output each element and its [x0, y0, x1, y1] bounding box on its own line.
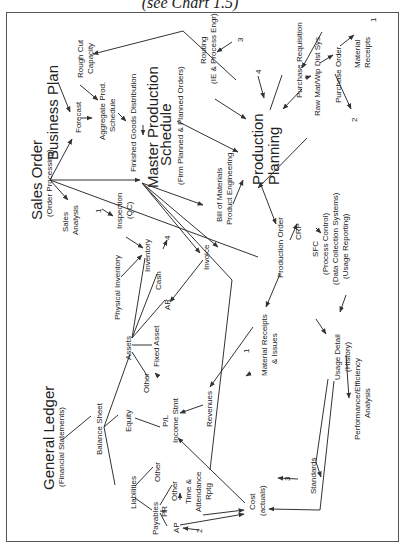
svg-text:Aggregate Prod.Schedule: Aggregate Prod.Schedule — [98, 82, 117, 140]
node-assets: Assets — [124, 336, 133, 360]
ref-pp-4: 4 — [254, 69, 263, 74]
node-ar: AR — [163, 299, 172, 310]
node-aggregate-2: Schedule — [108, 98, 117, 132]
node-balance-sheet: Balance Sheet — [95, 402, 104, 455]
node-pl-1: P/L — [161, 414, 170, 427]
node-cost-1: Cost — [248, 493, 257, 510]
node-equity: Equity — [124, 410, 133, 432]
node-other-pay: Other — [170, 481, 179, 501]
node-general-ledger: General Ledger — [40, 386, 57, 490]
node-mr-top-1: Material — [353, 39, 362, 68]
node-routing-2: (IE & Process Engr) — [209, 13, 218, 84]
node-purchase-req: Purchase Requisition — [295, 22, 304, 98]
erp-flow-diagram: Business Plan Forecast Rough CutCapacity… — [0, 0, 405, 549]
node-performance-1: Performance/Efficiency — [353, 358, 362, 440]
ref-inventory-4: 4 — [163, 235, 172, 240]
node-performance-2: Analysis — [363, 388, 372, 418]
node-rough-cut-1: Rough Cut — [76, 39, 85, 78]
node-ta-2: Attendance — [194, 471, 203, 512]
node-mr-top-2: Receipts — [363, 37, 372, 68]
node-cash: Cash — [154, 271, 163, 290]
svg-text:Master ProductionSchedule: Master ProductionSchedule — [144, 66, 174, 188]
node-invoice: Invoice — [202, 244, 211, 270]
node-raw-mat: Raw Mat/Wip Dist Sys — [313, 37, 322, 116]
svg-text:Material Receipts& Issues: Material Receipts& Issues — [260, 314, 279, 376]
svg-text:P/LIncome Stmt: P/LIncome Stmt — [161, 397, 180, 443]
svg-text:Time &AttendanceRptg: Time &AttendanceRptg — [184, 471, 213, 512]
svg-text:SalesAnalysis: SalesAnalysis — [61, 205, 80, 235]
node-fg-distribution: Finished Goods Distribution — [129, 74, 138, 172]
ref-mr-1: 1 — [369, 17, 378, 22]
node-sales-order: Sales Order — [28, 140, 45, 220]
node-mps-sub: (Firm Planned & Planned Orders) — [176, 66, 185, 185]
ref-po-2: 2 — [350, 117, 359, 122]
ref-standards-3: 3 — [283, 476, 292, 481]
node-production-order: Production Order — [276, 217, 285, 278]
node-inventory: Inventory — [143, 239, 152, 272]
node-other-liab: Other — [153, 462, 162, 482]
svg-text:Usage Detail(History): Usage Detail(History) — [333, 334, 352, 380]
node-mri-2: & Issues — [270, 333, 279, 364]
ref-ap-2: 2 — [195, 528, 204, 533]
node-sfc-3: (Data Collection Systems) — [331, 192, 340, 285]
svg-text:Bill of MaterialsProduct Engin: Bill of MaterialsProduct Engineering — [215, 153, 234, 226]
node-physical-inventory: Physical Inventory — [113, 255, 122, 320]
node-rough-cut-2: Capacity — [86, 43, 95, 74]
node-inspection-2: (QC) — [125, 201, 134, 219]
node-other-assets: Other — [142, 373, 151, 393]
node-liabilities: Liabilities — [129, 476, 138, 509]
node-ap: AP — [172, 522, 181, 533]
svg-text:MaterialReceipts: MaterialReceipts — [353, 37, 372, 68]
node-ta-1: Time & — [184, 478, 193, 504]
node-pp-2: Planning — [265, 127, 282, 185]
node-sales-order-sub: (Order Processing) — [45, 149, 54, 217]
svg-text:Cost(actuals): Cost(actuals) — [248, 485, 267, 516]
node-sfc-4: (Usage Reporting) — [341, 213, 350, 279]
node-standards: Standards — [309, 458, 318, 494]
node-payables: Payables — [151, 502, 160, 535]
node-bom-1: Bill of Materials — [215, 168, 224, 222]
node-sfc-2: (Process Control) — [321, 212, 330, 275]
node-mri-1: Material Receipts — [260, 314, 269, 376]
node-business-plan: Business Plan — [44, 65, 61, 160]
node-cost-2: (actuals) — [258, 485, 267, 516]
svg-text:ProductionPlanning: ProductionPlanning — [249, 113, 282, 185]
node-pp-1: Production — [249, 113, 266, 185]
node-general-ledger-sub: (Financial Statements) — [57, 407, 66, 487]
ref-mri-1: 1 — [242, 348, 251, 353]
node-forecast: Forecast — [74, 101, 83, 133]
ref-inspection-1: 1 — [94, 208, 103, 213]
node-crp: CRP — [294, 223, 303, 240]
node-usage-1: Usage Detail — [333, 334, 342, 380]
node-sfc-1: SFC — [311, 241, 320, 257]
svg-text:Inspection(QC): Inspection(QC) — [115, 193, 134, 229]
node-bom-2: Product Engineering — [225, 153, 234, 226]
node-inspection-1: Inspection — [115, 193, 124, 229]
svg-text:SFC(Process Control)(Data Coll: SFC(Process Control)(Data Collection Sys… — [311, 192, 350, 285]
node-sales-analysis-1: Sales — [61, 212, 70, 232]
node-usage-2: (History) — [343, 341, 352, 372]
node-fixed-asset: Fixed Asset — [152, 325, 161, 367]
node-mps-2: Schedule — [157, 103, 174, 166]
svg-text:Performance/EfficiencyAnalysis: Performance/EfficiencyAnalysis — [353, 358, 372, 440]
node-revenues: Revenues — [205, 391, 214, 427]
ref-routing-3: 3 — [236, 37, 245, 42]
node-pr: PR — [160, 506, 169, 517]
svg-text:Rough CutCapacity: Rough CutCapacity — [76, 39, 95, 78]
node-aggregate-1: Aggregate Prod. — [98, 82, 107, 140]
node-ta-3: Rptg — [204, 483, 213, 500]
node-routing-1: Routing — [199, 36, 208, 64]
node-purchase-order: Purchase Order — [334, 46, 343, 103]
node-pl-2: Income Stmt — [171, 397, 180, 443]
svg-text:Routing(IE & Process Engr): Routing(IE & Process Engr) — [199, 13, 218, 84]
node-sales-analysis-2: Analysis — [71, 205, 80, 235]
